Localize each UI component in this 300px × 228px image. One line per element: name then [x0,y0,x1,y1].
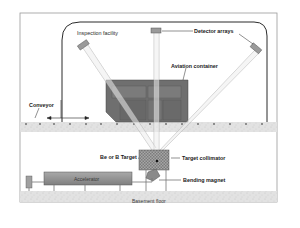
label-inspection-facility: Inspection facility [77,30,118,36]
ground-slab [20,122,277,132]
inspection-facility-diagram: Inspection facility Detector arrays Avia… [0,0,300,228]
label-bending-magnet: Bending magnet [183,177,225,183]
label-conveyor: Conveyor [29,102,55,108]
label-target-collimator: Target collimator [182,155,226,161]
target-collimator-block [139,150,169,170]
target-point [156,160,158,162]
label-aviation-container: Aviation container [171,63,219,69]
detector-top [151,28,161,33]
label-detector-arrays: Detector arrays [194,28,234,34]
aviation-container [106,80,188,122]
label-target: Be or B Target [100,154,137,160]
label-accelerator: Accelerator [74,176,100,182]
label-basement-floor: Basement floor [132,198,166,204]
